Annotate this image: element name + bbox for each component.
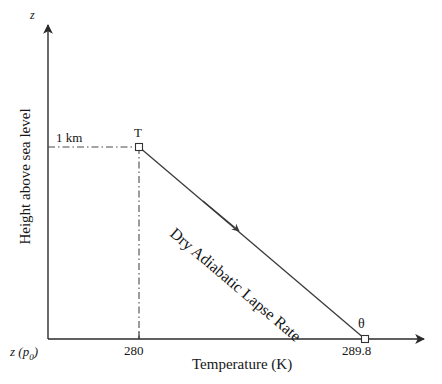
temperature-point-marker	[136, 144, 143, 151]
potential-temperature-point-label: θ	[358, 317, 365, 331]
lapse-rate-direction-arrow	[203, 201, 239, 231]
y-axis-title: Height above sea level	[8, 105, 42, 247]
x-axis-tick-label-280: 280	[124, 344, 144, 357]
x-axis-tick-label-2898: 289.8	[342, 344, 371, 357]
y-axis-top-symbol: z	[30, 9, 35, 21]
origin-pressure-label: z (p0)	[10, 345, 38, 362]
potential-temperature-point-marker	[362, 336, 369, 343]
x-axis-title: Temperature (K)	[192, 357, 292, 372]
y-axis-title-text: Height above sea level	[18, 108, 33, 244]
diagram-canvas	[0, 0, 442, 384]
temperature-point-label: T	[134, 126, 142, 139]
origin-label-main: z (p	[10, 344, 29, 359]
y-axis-tick-label-1km: 1 km	[56, 131, 82, 144]
lapse-rate-diagram: z Height above sea level z (p0) 1 km T θ…	[0, 0, 442, 384]
origin-label-tail: )	[34, 344, 38, 359]
